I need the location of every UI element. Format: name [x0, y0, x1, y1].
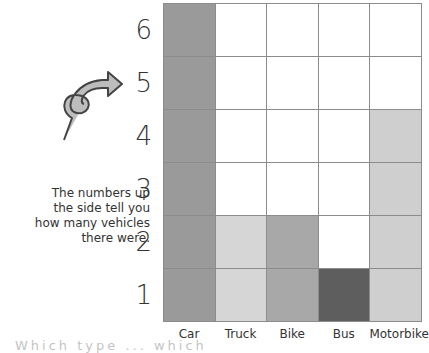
y-axis-tick: 5	[112, 70, 152, 96]
grid-cell	[163, 109, 216, 163]
grid-cell	[266, 109, 319, 163]
cut-off-question-text: Which type ... which	[15, 338, 207, 353]
grid-cell	[318, 109, 371, 163]
grid-cell	[369, 3, 422, 57]
y-axis-tick: 1	[112, 282, 152, 308]
x-axis-label: Bus	[318, 327, 370, 341]
grid-cell	[318, 162, 371, 216]
block-chart-grid	[163, 3, 421, 321]
grid-cell	[369, 268, 422, 322]
y-axis-tick: 3	[112, 176, 152, 202]
grid-cell	[163, 215, 216, 269]
grid-cell	[163, 162, 216, 216]
note-line: the side tell you	[4, 201, 150, 216]
grid-cell	[266, 162, 319, 216]
y-axis-tick: 4	[112, 123, 152, 149]
grid-cell	[163, 3, 216, 57]
grid-cell	[318, 268, 371, 322]
x-axis-label: Truck	[215, 327, 267, 341]
grid-cell	[369, 162, 422, 216]
grid-cell	[163, 268, 216, 322]
grid-cell	[266, 215, 319, 269]
x-axis-label: Motorbike	[369, 327, 421, 341]
grid-cell	[215, 3, 268, 57]
grid-cell	[266, 56, 319, 110]
grid-cell	[215, 109, 268, 163]
grid-cell	[215, 56, 268, 110]
grid-cell	[318, 56, 371, 110]
grid-cell	[266, 268, 319, 322]
grid-cell	[215, 215, 268, 269]
y-axis-tick: 2	[112, 229, 152, 255]
grid-cell	[215, 162, 268, 216]
y-axis-tick: 6	[112, 17, 152, 43]
x-axis-label: Bike	[266, 327, 318, 341]
grid-cell	[318, 3, 371, 57]
grid-cell	[369, 56, 422, 110]
grid-cell	[215, 268, 268, 322]
grid-cell	[266, 3, 319, 57]
grid-cell	[318, 215, 371, 269]
grid-cell	[369, 109, 422, 163]
grid-cell	[369, 215, 422, 269]
grid-cell	[163, 56, 216, 110]
